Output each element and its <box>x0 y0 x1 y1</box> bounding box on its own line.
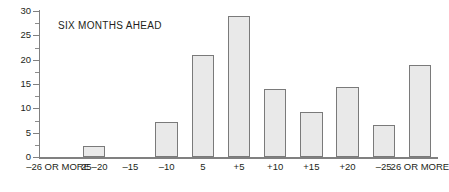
bar <box>155 122 177 157</box>
x-tick-label: 26 OR MORE <box>391 162 449 172</box>
x-tick-label: +20 <box>339 162 355 172</box>
x-tick-label: –10 <box>159 162 175 172</box>
y-tick-label: 20 <box>3 55 31 65</box>
bar <box>192 55 214 157</box>
y-tick-label: 30 <box>3 6 31 16</box>
y-tick-major <box>33 11 39 12</box>
x-tick-label: 5 <box>200 162 205 172</box>
y-tick-major <box>33 35 39 36</box>
bar <box>264 89 286 157</box>
bar <box>409 65 431 157</box>
y-tick-minor <box>35 23 39 24</box>
bar <box>336 87 358 157</box>
y-tick-label: 10 <box>3 104 31 114</box>
y-tick-label: 25 <box>3 31 31 41</box>
y-tick-minor <box>35 96 39 97</box>
x-tick-label: +5 <box>234 162 245 172</box>
x-axis: –26 OR MORE25–20–15–105+5+10+15+20–2526 … <box>0 162 447 184</box>
y-tick-major <box>33 60 39 61</box>
bar <box>228 16 250 157</box>
x-tick-label: +10 <box>267 162 283 172</box>
y-tick-major <box>33 84 39 85</box>
x-axis-line <box>39 157 438 159</box>
bar <box>373 125 395 157</box>
x-tick-label: +15 <box>303 162 319 172</box>
y-tick-minor <box>35 72 39 73</box>
bar <box>300 112 322 157</box>
y-tick-label: 5 <box>3 128 31 138</box>
x-tick-label: 25–20 <box>81 162 107 172</box>
y-tick-label: 15 <box>3 79 31 89</box>
y-tick-minor <box>35 145 39 146</box>
plot-area <box>40 11 438 157</box>
y-tick-minor <box>35 121 39 122</box>
y-tick-major <box>33 108 39 109</box>
y-tick-minor <box>35 48 39 49</box>
bar <box>83 146 105 157</box>
y-tick-major <box>33 133 39 134</box>
x-tick-label: –25 <box>376 162 392 172</box>
x-tick-label: –15 <box>123 162 139 172</box>
y-tick-major <box>33 157 39 158</box>
